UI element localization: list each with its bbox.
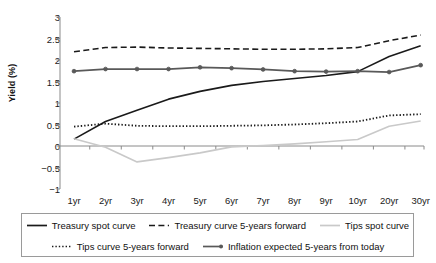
legend-swatch-icon [51, 242, 73, 251]
data-point [167, 67, 171, 71]
data-point [324, 70, 328, 74]
data-point [419, 63, 423, 67]
chart-canvas [0, 0, 436, 210]
legend-item[interactable]: Tips curve 5-years forward [51, 241, 189, 252]
series-line-1 [74, 35, 421, 52]
legend-label: Treasury spot curve [52, 220, 136, 231]
legend-row: Tips curve 5-years forwardInflation expe… [22, 236, 413, 257]
series-line-2 [74, 121, 421, 162]
legend-swatch-icon [148, 221, 170, 230]
legend-item[interactable]: Tips spot curve [319, 220, 409, 231]
legend-label: Treasury curve 5-years forward [174, 220, 306, 231]
data-point [104, 67, 108, 71]
data-point [198, 65, 202, 69]
data-point [293, 69, 297, 73]
plot-area: Yield (%) 32.521.510.50−0.5−1 1yr2yr3yr4… [0, 0, 436, 210]
data-point [387, 70, 391, 74]
chart-legend: Treasury spot curveTreasury curve 5-year… [21, 213, 414, 257]
legend-label: Tips curve 5-years forward [77, 241, 189, 252]
legend-item[interactable]: Inflation expected 5-years from today [202, 241, 384, 252]
legend-swatch-icon [319, 221, 341, 230]
legend-item[interactable]: Treasury curve 5-years forward [148, 220, 306, 231]
axis-lines [60, 17, 424, 189]
data-point [72, 69, 76, 73]
legend-label: Inflation expected 5-years from today [228, 241, 384, 252]
data-point [261, 68, 265, 72]
legend-item[interactable]: Treasury spot curve [26, 220, 136, 231]
legend-row: Treasury spot curveTreasury curve 5-year… [22, 215, 413, 236]
legend-swatch-icon [202, 242, 224, 251]
data-point [356, 69, 360, 73]
data-point [135, 67, 139, 71]
series-line-3 [74, 114, 421, 126]
legend-swatch-icon [26, 221, 48, 230]
legend-label: Tips spot curve [345, 220, 409, 231]
data-point [230, 66, 234, 70]
y-axis-ticks [57, 17, 61, 189]
yield-curve-figure: Yield (%) 32.521.510.50−0.5−1 1yr2yr3yr4… [0, 0, 436, 263]
